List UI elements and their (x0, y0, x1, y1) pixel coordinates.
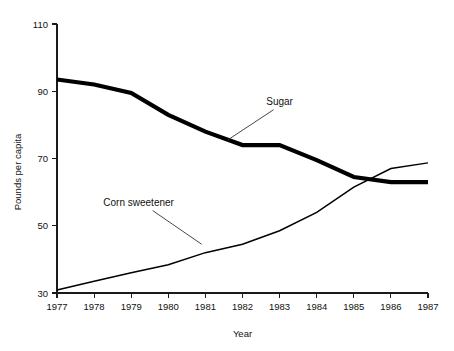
x-tick-label: 1980 (158, 301, 179, 312)
series-line-sugar (57, 79, 428, 182)
x-tick-label: 1977 (46, 301, 67, 312)
x-tick-label: 1978 (84, 301, 105, 312)
x-tick-label: 1982 (232, 301, 253, 312)
corn-sweetener-leader-line (153, 211, 202, 245)
x-axis-title: Year (233, 328, 252, 339)
y-tick-label: 30 (37, 288, 48, 299)
x-tick-label: 1985 (343, 301, 364, 312)
series-label-sugar: Sugar (266, 96, 293, 107)
x-tick-label: 1983 (269, 301, 290, 312)
chart-axes: 30507090110 1977197819791980198119821983… (33, 19, 439, 313)
x-tick-label: 1981 (195, 301, 216, 312)
x-tick-label: 1979 (121, 301, 142, 312)
y-tick-label: 50 (37, 220, 48, 231)
y-tick-label: 90 (37, 86, 48, 97)
series-line-corn-sweetener (57, 163, 428, 290)
y-tick-label: 110 (33, 19, 48, 30)
y-axis-title: Pounds per capita (12, 133, 23, 210)
x-tick-label: 1987 (417, 301, 438, 312)
chart-series (57, 79, 428, 289)
x-tick-label: 1986 (380, 301, 401, 312)
sugar-leader-line (228, 110, 274, 140)
y-tick-label: 70 (37, 153, 48, 164)
x-tick-label: 1984 (306, 301, 327, 312)
chart-container: 30507090110 1977197819791980198119821983… (0, 0, 454, 351)
chart-annotations: Sugar Corn sweetener (103, 96, 293, 245)
x-axis-ticks: 1977197819791980198119821983198419851986… (46, 293, 438, 312)
line-chart: 30507090110 1977197819791980198119821983… (0, 0, 454, 351)
y-axis-ticks: 30507090110 (33, 19, 57, 299)
series-label-corn-sweetener: Corn sweetener (103, 197, 174, 208)
